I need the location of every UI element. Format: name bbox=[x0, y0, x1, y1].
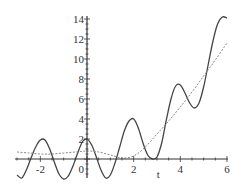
x-tick-label: 2 bbox=[131, 163, 137, 175]
y-tick-label: 10 bbox=[73, 53, 85, 65]
x-axis-label: t bbox=[157, 168, 160, 180]
x-tick-label: -2 bbox=[36, 163, 45, 175]
y-tick-label: 8 bbox=[79, 73, 85, 85]
axes-group bbox=[15, 16, 228, 178]
y-tick-label: 6 bbox=[79, 93, 85, 105]
y-tick-label: 4 bbox=[79, 113, 85, 125]
series-solid-oscillating bbox=[17, 17, 227, 179]
x-tick-label: 4 bbox=[178, 163, 184, 175]
x-tick-label: 0 bbox=[79, 163, 85, 175]
x-tick-label: 6 bbox=[224, 163, 230, 175]
curves-group bbox=[17, 17, 227, 179]
y-tick-label: 12 bbox=[73, 33, 84, 45]
y-tick-label: 2 bbox=[79, 133, 85, 145]
plot-area: 2468101214-20246t bbox=[0, 0, 240, 186]
y-tick-label: 14 bbox=[73, 13, 85, 25]
